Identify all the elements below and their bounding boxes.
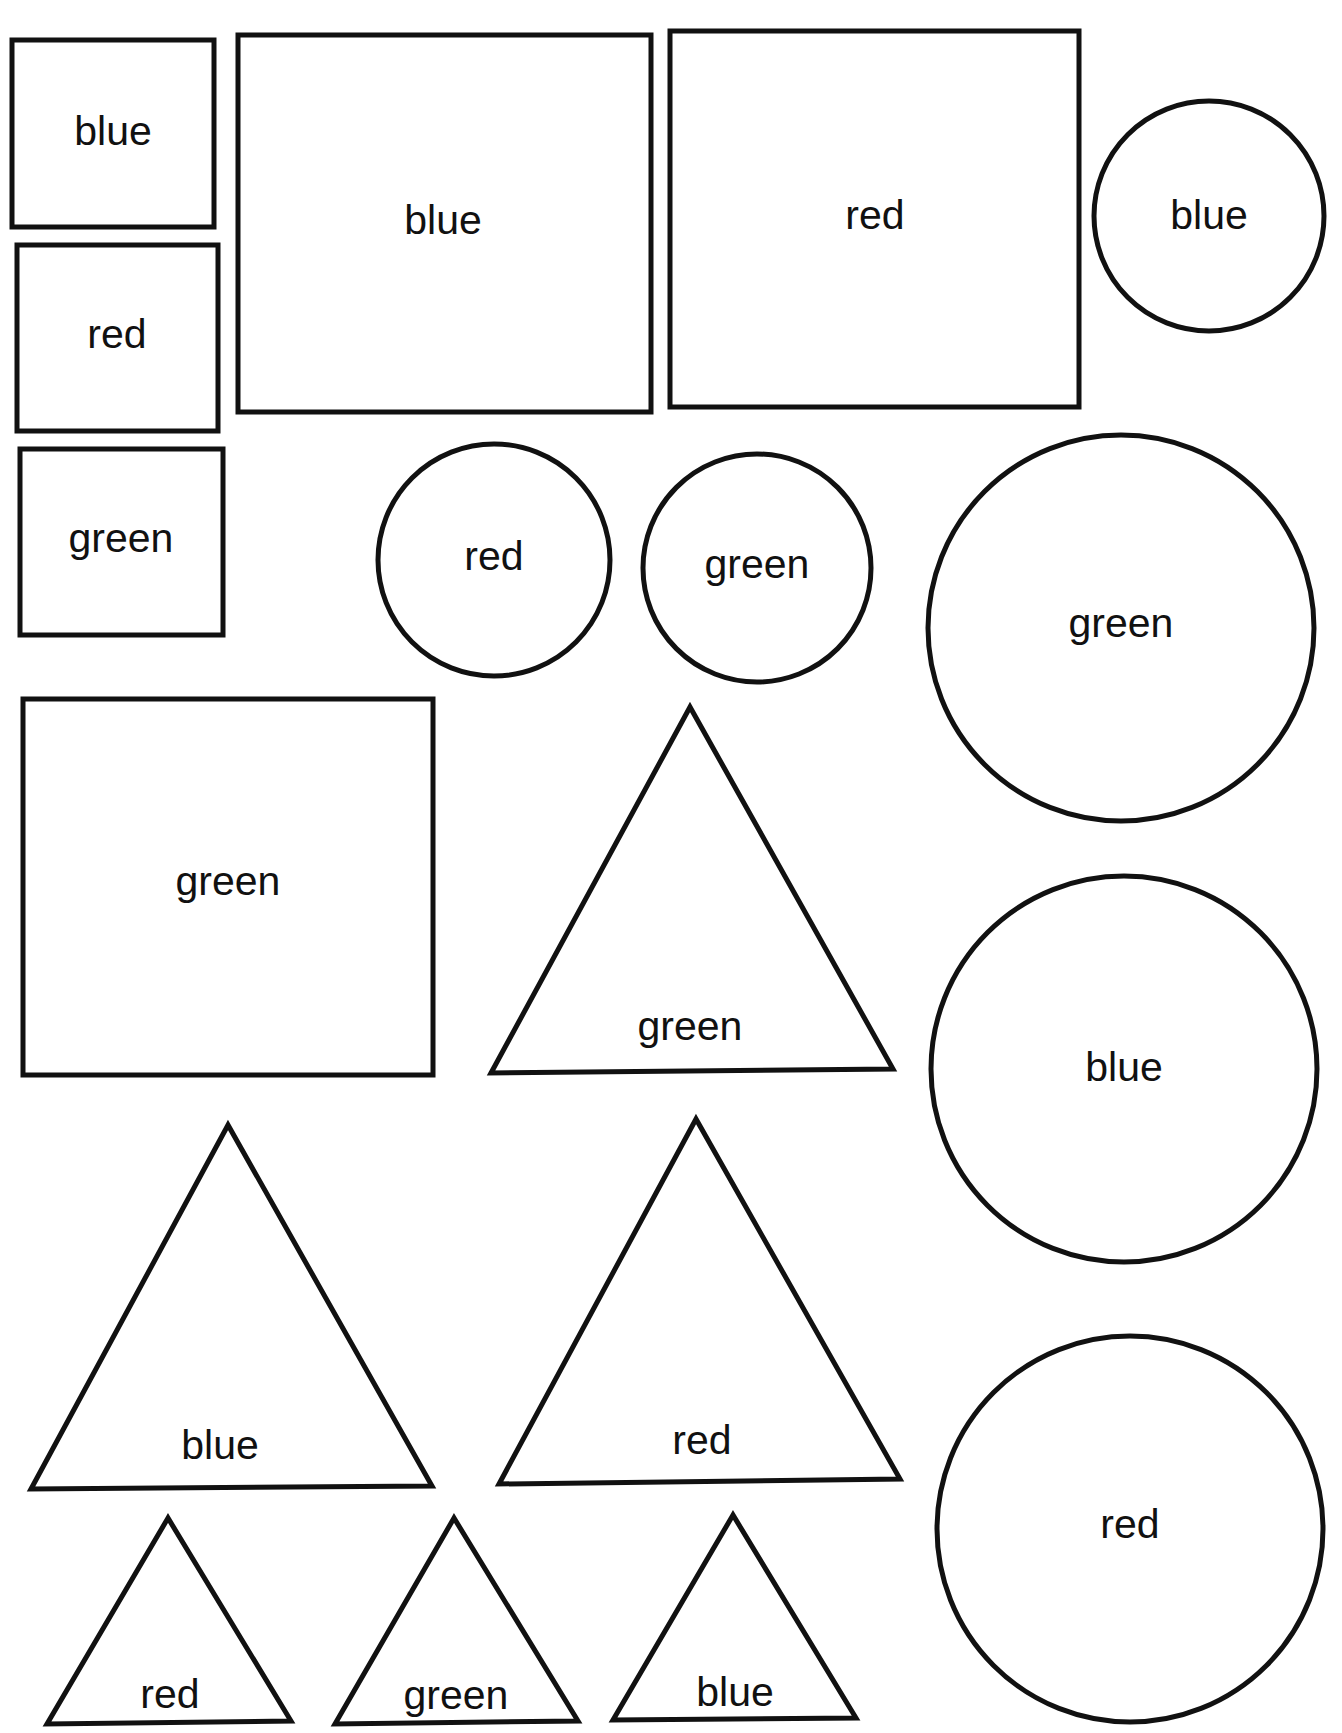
shape-color-label: red xyxy=(87,311,146,357)
shape-color-label: red xyxy=(464,533,523,579)
shape-square-blue: blue xyxy=(238,35,651,412)
shape-triangle-red: red xyxy=(47,1518,291,1724)
shape-color-label: green xyxy=(69,515,174,561)
shape-color-label: green xyxy=(404,1672,509,1718)
shape-color-label: blue xyxy=(74,108,152,154)
shape-color-label: blue xyxy=(1170,192,1248,238)
shape-circle-red: red xyxy=(378,444,610,676)
shape-triangle-green: green xyxy=(491,707,893,1073)
shape-triangle-green: green xyxy=(335,1518,578,1724)
shapes-layer: blueredgreenblueredblueredgreengreengree… xyxy=(12,31,1324,1724)
shape-square-blue: blue xyxy=(12,40,214,227)
shape-color-label: blue xyxy=(696,1669,774,1715)
shape-color-label: blue xyxy=(1085,1044,1163,1090)
shape-square-red: red xyxy=(17,245,218,431)
shape-color-label: red xyxy=(1100,1501,1159,1547)
shape-triangle-blue: blue xyxy=(613,1515,856,1720)
shape-square-green: green xyxy=(20,449,223,635)
shape-square-red: red xyxy=(670,31,1079,407)
shape-color-label: red xyxy=(140,1671,199,1717)
shape-color-label: green xyxy=(1069,600,1174,646)
shape-square-green: green xyxy=(23,699,433,1075)
shape-color-label: red xyxy=(845,192,904,238)
shape-circle-green: green xyxy=(928,435,1314,821)
shape-circle-blue: blue xyxy=(1094,101,1324,331)
shape-triangle-blue: blue xyxy=(31,1125,432,1489)
shape-circle-green: green xyxy=(643,454,871,682)
shape-color-label: green xyxy=(176,858,281,904)
shape-color-label: blue xyxy=(181,1422,259,1468)
shape-color-label: green xyxy=(638,1003,743,1049)
shape-circle-red: red xyxy=(937,1336,1323,1722)
shape-circle-blue: blue xyxy=(931,876,1317,1262)
shape-color-label: blue xyxy=(404,197,482,243)
shape-color-label: green xyxy=(705,541,810,587)
shape-triangle-red: red xyxy=(499,1119,900,1484)
worksheet-canvas: blueredgreenblueredblueredgreengreengree… xyxy=(0,0,1342,1733)
shape-color-label: red xyxy=(672,1417,731,1463)
